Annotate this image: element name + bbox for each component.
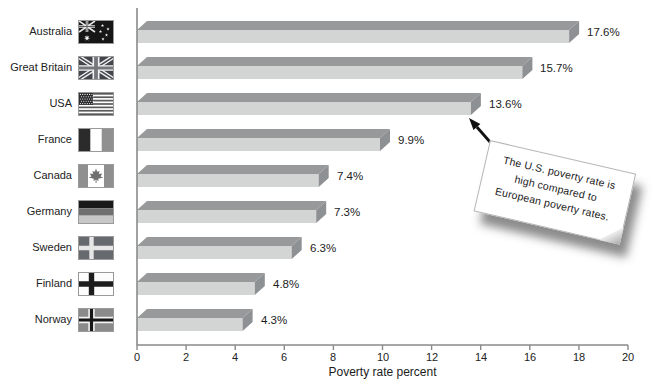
x-axis-title: Poverty rate percent [137,365,628,379]
poverty-rate-bar-chart: Australia17.6%Great Britain15.7%USA13.6%… [0,0,657,386]
